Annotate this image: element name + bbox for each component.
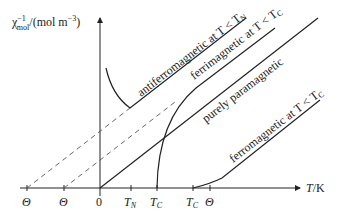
svg-text:0: 0 <box>96 195 102 209</box>
ferri-extrapolation-dashed <box>64 102 175 188</box>
svg-text:TC: TC <box>186 195 199 210</box>
y-axis-label: χ−1mol/(mol m−3) <box>11 14 80 32</box>
svg-text:TC: TC <box>150 195 163 210</box>
svg-text:TN: TN <box>124 195 137 210</box>
svg-text:Θ: Θ <box>59 195 68 209</box>
x-axis-label: T/K <box>306 181 325 195</box>
svg-text:Θ: Θ <box>205 195 214 209</box>
magnetic-susceptibility-diagram: χ−1mol/(mol m−3) T/K Θ Θ 0 TN TC TC Θ an… <box>0 0 363 212</box>
svg-text:Θ: Θ <box>22 195 31 209</box>
tick-labels: Θ Θ 0 TN TC TC Θ <box>22 195 214 210</box>
